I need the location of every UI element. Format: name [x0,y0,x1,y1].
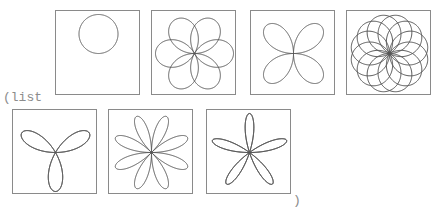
rose-curve [152,11,237,96]
plot-rose-5 [206,109,291,194]
list-close-paren: ) [293,194,301,207]
rose-curve [109,110,194,195]
plot-rose-3 [12,109,97,194]
plot-circle [55,10,140,95]
rose-curve [13,110,98,195]
rose-curve [207,110,292,195]
plot-rose-4 [250,10,335,95]
rose-curve [347,11,432,96]
list-open-paren: (list [3,91,42,104]
rose-curve [251,11,336,96]
plot-rose-8 [108,109,193,194]
plot-rose-12-wide [346,10,431,95]
rose-curve [56,11,141,96]
plot-rose-6-wide [151,10,236,95]
